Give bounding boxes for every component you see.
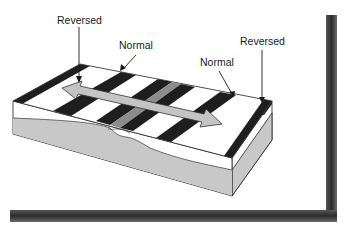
label-normal-right: Normal bbox=[200, 57, 234, 68]
label-reversed-right: Reversed bbox=[240, 36, 285, 47]
label-normal-left: Normal bbox=[119, 40, 153, 51]
block-diagram bbox=[0, 0, 347, 239]
figure: Reversed Normal Normal Reversed bbox=[0, 0, 347, 239]
label-reversed-left: Reversed bbox=[57, 15, 102, 26]
arrowhead-normal-left bbox=[120, 64, 126, 71]
